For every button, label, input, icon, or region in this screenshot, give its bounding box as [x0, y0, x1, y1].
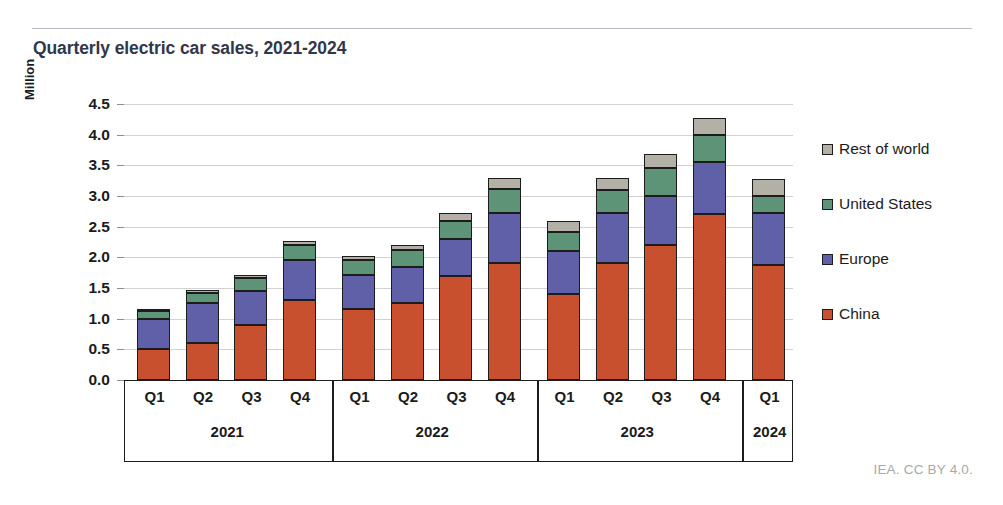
bar-stack[interactable] — [391, 245, 424, 380]
y-axis-tick-mark — [117, 165, 124, 166]
x-axis-group-separator — [537, 381, 539, 461]
bar-segment[interactable] — [391, 267, 424, 304]
bar-segment[interactable] — [342, 260, 375, 274]
bar-segment[interactable] — [693, 118, 726, 135]
y-axis-title-label: Million — [22, 30, 37, 100]
bar-segment[interactable] — [137, 311, 170, 318]
bar-stack[interactable] — [234, 275, 267, 380]
y-axis-tick-label: 1.0 — [64, 310, 110, 328]
bar-stack[interactable] — [439, 213, 472, 380]
x-axis-quarter-label: Q1 — [338, 388, 382, 405]
legend-item-europe[interactable]: Europe — [822, 250, 889, 268]
bar-segment[interactable] — [283, 300, 316, 380]
bar-segment[interactable] — [234, 325, 267, 380]
bar-segment[interactable] — [488, 178, 521, 189]
bar-segment[interactable] — [186, 293, 219, 303]
legend-swatch-icon — [822, 199, 833, 210]
bar-segment[interactable] — [752, 179, 785, 196]
bar-segment[interactable] — [234, 291, 267, 325]
legend-swatch-icon — [822, 254, 833, 265]
bar-segment[interactable] — [547, 251, 580, 294]
bar-stack[interactable] — [342, 256, 375, 380]
legend-label: Europe — [839, 250, 889, 268]
bar-segment[interactable] — [391, 245, 424, 250]
bar-segment[interactable] — [283, 260, 316, 300]
y-axis-tick-mark — [117, 196, 124, 197]
bar-segment[interactable] — [234, 278, 267, 291]
bar-stack[interactable] — [644, 154, 677, 380]
x-axis-year-label: 2022 — [343, 423, 522, 440]
x-axis-quarter-label: Q1 — [748, 388, 792, 405]
x-axis-quarter-label: Q4 — [483, 388, 527, 405]
bar-segment[interactable] — [342, 256, 375, 260]
bar-segment[interactable] — [391, 303, 424, 380]
y-axis-tick-label: 3.5 — [64, 156, 110, 174]
bar-segment[interactable] — [596, 178, 629, 190]
bar-segment[interactable] — [547, 294, 580, 380]
x-axis-year-label: 2021 — [138, 423, 317, 440]
bar-segment[interactable] — [137, 349, 170, 380]
bar-stack[interactable] — [186, 290, 219, 380]
bar-segment[interactable] — [234, 275, 267, 278]
x-axis-group-separator — [742, 381, 744, 461]
bar-segment[interactable] — [547, 232, 580, 252]
bar-stack[interactable] — [693, 118, 726, 381]
bar-segment[interactable] — [596, 263, 629, 380]
bar-segment[interactable] — [439, 221, 472, 239]
bar-segment[interactable] — [644, 168, 677, 196]
bar-segment[interactable] — [752, 196, 785, 213]
bar-segment[interactable] — [342, 275, 375, 310]
x-axis-frame: Q1Q2Q3Q4Q1Q2Q3Q4Q1Q2Q3Q4Q1 2021202220232… — [124, 380, 793, 462]
bar-segment[interactable] — [752, 265, 785, 380]
y-axis-tick-label: 3.0 — [64, 187, 110, 205]
bar-stack[interactable] — [283, 241, 316, 380]
bar-segment[interactable] — [693, 162, 726, 214]
bar-segment[interactable] — [547, 221, 580, 232]
x-axis-quarter-label: Q3 — [230, 388, 274, 405]
x-axis-quarter-label: Q4 — [688, 388, 732, 405]
legend-item-china[interactable]: China — [822, 305, 880, 323]
bar-segment[interactable] — [488, 263, 521, 380]
bar-segment[interactable] — [186, 303, 219, 343]
bar-segment[interactable] — [283, 241, 316, 245]
bar-stack[interactable] — [596, 178, 629, 380]
y-axis-tick-mark — [117, 380, 124, 381]
x-axis-group-separator — [332, 381, 334, 461]
bar-segment[interactable] — [439, 276, 472, 380]
x-axis-quarter-label: Q3 — [640, 388, 684, 405]
y-axis-tick-label: 4.5 — [64, 95, 110, 113]
bar-segment[interactable] — [596, 213, 629, 263]
x-axis-quarter-label: Q2 — [181, 388, 225, 405]
chart-container: Million 0.00.51.01.52.02.53.03.54.04.5 Q… — [0, 0, 1003, 505]
bar-stack[interactable] — [547, 221, 580, 380]
bar-segment[interactable] — [644, 154, 677, 168]
legend-item-united-states[interactable]: United States — [822, 195, 932, 213]
y-axis-tick-label: 2.0 — [64, 248, 110, 266]
bar-segment[interactable] — [137, 319, 170, 350]
bar-segment[interactable] — [693, 214, 726, 380]
bar-segment[interactable] — [693, 135, 726, 163]
bar-segment[interactable] — [186, 290, 219, 293]
bar-segment[interactable] — [439, 239, 472, 276]
y-axis-tick-mark — [117, 288, 124, 289]
bar-segment[interactable] — [391, 250, 424, 267]
x-axis-quarter-label: Q3 — [435, 388, 479, 405]
bar-segment[interactable] — [488, 189, 521, 214]
bar-segment[interactable] — [283, 245, 316, 260]
bar-stack[interactable] — [752, 179, 785, 380]
bar-stack[interactable] — [488, 178, 521, 380]
bar-segment[interactable] — [596, 190, 629, 213]
bar-segment[interactable] — [644, 245, 677, 380]
bar-stack[interactable] — [137, 309, 170, 380]
bar-segment[interactable] — [644, 196, 677, 245]
bar-segment[interactable] — [186, 343, 219, 380]
legend-item-rest-of-world[interactable]: Rest of world — [822, 140, 929, 158]
y-axis-tick-mark — [117, 349, 124, 350]
bar-segment[interactable] — [137, 309, 170, 311]
footer-credit: IEA. CC BY 4.0. — [873, 462, 973, 477]
bar-segment[interactable] — [752, 213, 785, 265]
bar-segment[interactable] — [488, 213, 521, 263]
y-axis-tick-label: 0.5 — [64, 340, 110, 358]
bar-segment[interactable] — [439, 213, 472, 220]
bar-segment[interactable] — [342, 309, 375, 380]
